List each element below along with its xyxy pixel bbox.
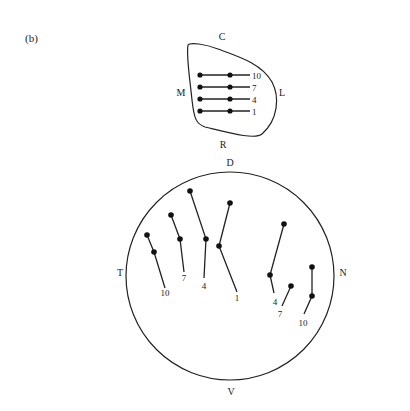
track-dot: [281, 221, 287, 227]
tectum-label-n: N: [339, 267, 346, 278]
retina-label-c: C: [219, 31, 226, 42]
track-line: [190, 191, 206, 278]
panel-label: (b): [25, 32, 38, 45]
track-dot: [203, 236, 209, 242]
retina-row-label: 4: [252, 95, 257, 105]
track-dot: [288, 283, 294, 289]
track-label: 1: [235, 293, 240, 303]
track-line: [282, 286, 291, 306]
track-dot: [227, 200, 233, 206]
track-dot: [168, 212, 174, 218]
retina-rows: 10741: [197, 71, 261, 117]
retina-dot: [227, 108, 232, 113]
retina-label-m: M: [177, 87, 186, 98]
retina-row-label: 1: [252, 107, 257, 117]
track-dot: [151, 249, 157, 255]
track-dot: [177, 236, 183, 242]
retina-dot: [227, 96, 232, 101]
tectum-track: 7: [278, 283, 294, 319]
track-line: [219, 203, 237, 292]
retina-row: 1: [197, 107, 256, 117]
track-label: 4: [273, 297, 278, 307]
retina-label-r: R: [220, 139, 227, 150]
retinotectal-diagram: (b) C M L R 10741 D T N V 107414710: [0, 0, 410, 411]
tectum-label-t: T: [117, 267, 123, 278]
retina-dot: [227, 84, 232, 89]
track-label: 7: [182, 273, 187, 283]
track-label: 10: [161, 288, 171, 298]
track-dot: [187, 188, 193, 194]
track-label: 7: [278, 309, 283, 319]
tectum-label-d: D: [226, 157, 233, 168]
tectum-track: 4: [187, 188, 209, 291]
retina-row-label: 10: [252, 71, 262, 81]
retina-dot: [227, 72, 232, 77]
track-line: [270, 224, 284, 293]
tectum-track: 10: [144, 232, 170, 298]
tectum-track: 4: [267, 221, 287, 307]
retina-row: 4: [197, 95, 257, 105]
retina-dot: [197, 108, 202, 113]
retina-row: 10: [197, 71, 261, 81]
tectum-track: 10: [299, 264, 315, 328]
track-line: [171, 215, 184, 272]
track-line: [147, 235, 165, 288]
track-label: 10: [299, 318, 309, 328]
tectum-track: 1: [216, 200, 239, 303]
tectum-label-v: V: [227, 386, 235, 397]
track-label: 4: [202, 281, 207, 291]
tectum-track: 7: [168, 212, 187, 283]
track-dot: [267, 272, 273, 278]
retina-row-label: 7: [252, 83, 257, 93]
retina-dot: [197, 96, 202, 101]
tectum-tracks: 107414710: [144, 188, 315, 328]
track-dot: [216, 243, 222, 249]
retina-dot: [197, 84, 202, 89]
retina-row: 7: [197, 83, 257, 93]
retina-dot: [197, 72, 202, 77]
retina-outline: [187, 44, 276, 137]
track-dot: [309, 293, 315, 299]
track-line: [304, 267, 312, 314]
retina-label-l: L: [279, 87, 285, 98]
track-dot: [144, 232, 150, 238]
track-dot: [309, 264, 315, 270]
